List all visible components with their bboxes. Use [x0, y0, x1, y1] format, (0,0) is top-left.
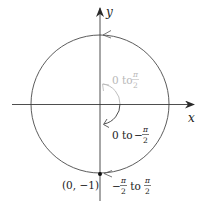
svg-text:2: 2 [121, 187, 126, 196]
small-arc-upper [103, 84, 120, 104]
svg-text:π: π [132, 70, 139, 79]
unit-circle-diagram: y x 0 to π 2 0 to − π 2 (0, −1) − π 2 to… [0, 0, 204, 206]
point-label: (0, −1) [62, 179, 99, 191]
point-0-neg1 [98, 172, 102, 176]
label-0-to-neg-pi-over-2: 0 to − π 2 [112, 125, 149, 145]
label-0-to-pi-over-2: 0 to π 2 [112, 70, 139, 90]
svg-text:2: 2 [143, 136, 148, 145]
svg-text:π: π [120, 176, 127, 185]
svg-text:π: π [144, 176, 151, 185]
svg-text:2: 2 [133, 81, 138, 90]
x-axis-label: x [188, 111, 195, 125]
svg-text:to: to [127, 180, 144, 192]
svg-text:2: 2 [145, 187, 150, 196]
circle-arrow-top-icon [103, 31, 111, 39]
y-axis-label: y [105, 5, 113, 19]
svg-text:−: − [112, 180, 121, 192]
circle-arrow-bottom-icon [104, 171, 112, 178]
label-range-neg-pi-over-2-to-pi-over-2: − π 2 to π 2 [112, 176, 151, 196]
svg-text:π: π [142, 125, 149, 134]
svg-text:−: − [134, 129, 143, 141]
small-arc-lower [104, 104, 120, 124]
svg-text:0 to: 0 to [112, 129, 136, 141]
